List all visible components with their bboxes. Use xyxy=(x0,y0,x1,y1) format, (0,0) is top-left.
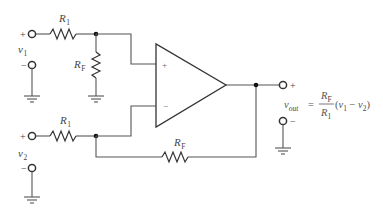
wire-to-noninverting xyxy=(96,34,156,64)
rf-shunt-label: RF xyxy=(73,58,85,73)
r1-bottom-label: R1 xyxy=(59,114,71,129)
ground-icon xyxy=(88,96,104,102)
output: + − xyxy=(226,80,296,154)
junction-node xyxy=(254,83,259,88)
op-amp-triangle-icon xyxy=(156,44,226,127)
wire xyxy=(96,136,162,157)
v1-minus-sign: − xyxy=(21,60,27,71)
noninverting-sign: + xyxy=(162,60,167,70)
ground-icon xyxy=(24,197,40,203)
v1-plus-sign: + xyxy=(20,29,26,40)
v2-minus-sign: − xyxy=(21,163,27,174)
fraction-numerator: RF xyxy=(320,90,332,104)
v1-minus-terminal[interactable] xyxy=(28,61,35,68)
resistor-icon xyxy=(162,152,188,162)
vout-minus-sign: − xyxy=(290,116,296,127)
vout-plus-sign: + xyxy=(290,80,296,91)
v2-plus-sign: + xyxy=(20,131,26,142)
vout-plus-terminal[interactable] xyxy=(279,81,286,88)
resistor-r1-bottom: R1 xyxy=(50,114,76,141)
equals-sign: = xyxy=(308,99,314,110)
rf-feedback-label: RF xyxy=(173,136,185,151)
resistor-rf-shunt: RF xyxy=(73,34,104,102)
v1-plus-terminal[interactable] xyxy=(28,30,35,37)
difference-term: (v1 − v2) xyxy=(335,99,371,113)
inverting-sign: − xyxy=(163,101,168,111)
vout-symbol: vout xyxy=(284,99,299,113)
v2-minus-terminal[interactable] xyxy=(28,164,35,171)
resistor-r1-top: R1 xyxy=(50,12,76,39)
v2-plus-terminal[interactable] xyxy=(28,132,35,139)
resistor-icon xyxy=(50,29,76,39)
input-v2: + v2 − xyxy=(18,131,40,203)
ground-icon xyxy=(275,148,291,154)
vout-minus-terminal[interactable] xyxy=(279,117,286,124)
op-amp: + − xyxy=(156,44,226,127)
r1-top-label: R1 xyxy=(58,12,70,27)
resistor-icon xyxy=(92,52,100,78)
input-v1: + v1 − xyxy=(18,29,40,102)
v2-label: v2 xyxy=(18,147,27,162)
v1-label: v1 xyxy=(18,43,27,58)
resistor-icon xyxy=(50,131,76,141)
output-equation: vout = RF R1 (v1 − v2) xyxy=(284,90,371,121)
fraction-denominator: R1 xyxy=(320,107,331,121)
difference-amplifier-circuit: + v1 − R1 RF + − xyxy=(0,0,383,209)
wire-to-inverting xyxy=(96,106,156,136)
ground-icon xyxy=(24,96,40,102)
